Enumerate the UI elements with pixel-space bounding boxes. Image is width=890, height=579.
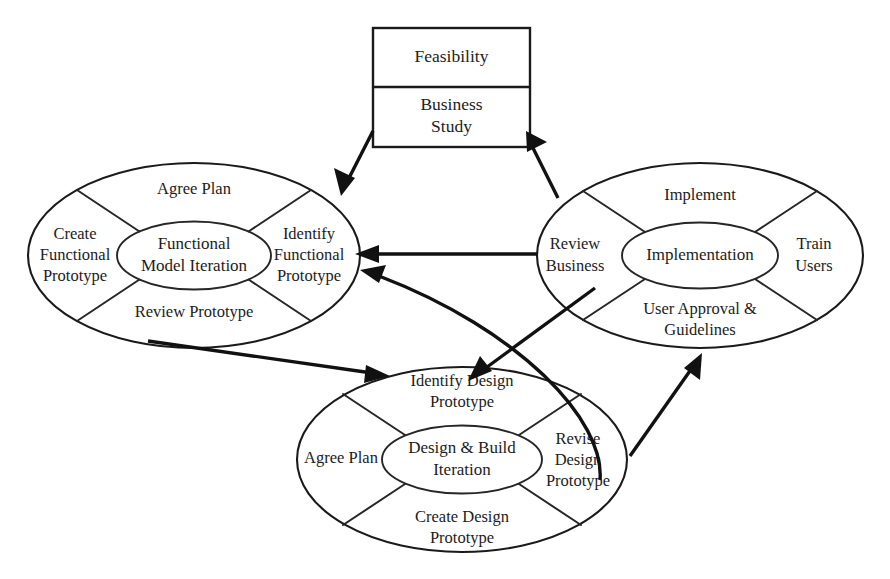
arrow-head-design-build-to-functional: [360, 265, 386, 283]
implementation-center-label-line1: Implementation: [646, 245, 754, 264]
design-build-spoke-top-left: [343, 394, 405, 435]
functional-spoke-bottom-left: [77, 280, 140, 322]
cycle-functional-model-iteration: Functional Model Iteration Agree Plan Id…: [28, 163, 360, 348]
design-build-spoke-bottom-left: [343, 484, 405, 525]
design-build-center-label-line2: Iteration: [433, 460, 491, 479]
dsdm-lifecycle-diagram: Feasibility Business Study Functional Mo…: [0, 0, 890, 579]
arrow-implementation-to-functional: [355, 245, 537, 263]
implementation-segment-left-label-line2: Business: [546, 256, 605, 275]
diagram-canvas: Feasibility Business Study Functional Mo…: [0, 0, 890, 579]
cycle-implementation: Implementation Implement Train Users Use…: [537, 163, 863, 348]
implementation-segment-right-label-line2: Users: [795, 256, 833, 275]
design-build-segment-left-label-line1: Agree Plan: [304, 448, 378, 467]
stage-box: Feasibility Business Study: [373, 28, 530, 147]
design-build-segment-top-label-line1: Identify Design: [410, 371, 513, 390]
functional-segment-top-label: Agree Plan: [157, 179, 231, 198]
functional-segment-right-label-line1: Identify: [283, 224, 336, 243]
stage-box-row-business-study-line2: Study: [431, 116, 472, 136]
functional-segment-left-label-line1: Create: [53, 224, 96, 243]
functional-spoke-bottom-right: [249, 280, 312, 322]
design-build-center-label-line1: Design & Build: [408, 438, 516, 457]
functional-segment-left-label-line3: Prototype: [43, 266, 107, 285]
arrow-implementation-to-design-build: [468, 288, 595, 381]
implementation-segment-top-label: Implement: [664, 185, 736, 204]
arrow-implementation-to-business-study: [526, 131, 558, 198]
implementation-spoke-bottom-right: [755, 279, 817, 320]
implementation-spoke-top-left: [583, 191, 645, 232]
implementation-spoke-bottom-left: [583, 279, 645, 320]
stage-box-row-business-study-line1: Business: [420, 94, 482, 114]
design-build-spoke-bottom-right: [519, 484, 581, 525]
design-build-segment-bottom-label-line2: Prototype: [430, 528, 494, 547]
cycle-design-and-build-iteration: Design & Build Iteration Identify Design…: [297, 367, 627, 552]
design-build-segment-bottom-label-line1: Create Design: [415, 507, 509, 526]
functional-segment-right-label-line2: Functional: [274, 245, 345, 264]
functional-center-label-line1: Functional: [158, 234, 231, 253]
arrow-business-study-to-functional: [334, 131, 373, 196]
functional-segment-right-label-line3: Prototype: [277, 266, 341, 285]
functional-segment-left-label-line2: Functional: [40, 245, 111, 264]
stage-box-row-feasibility-label: Feasibility: [415, 46, 489, 66]
implementation-segment-bottom-label-line2: Guidelines: [664, 320, 736, 339]
functional-segment-bottom-label: Review Prototype: [135, 302, 254, 321]
arrow-head-implementation-to-business-study: [526, 131, 547, 152]
design-build-segment-top-label-line2: Prototype: [430, 392, 494, 411]
implementation-spoke-top-right: [755, 191, 817, 232]
arrow-functional-to-design-build: [148, 341, 390, 383]
arrow-design-build-to-implementation: [630, 353, 702, 456]
implementation-segment-bottom-label-line1: User Approval &: [643, 299, 757, 318]
implementation-segment-right-label-line1: Train: [796, 234, 831, 253]
functional-center-label-line2: Model Iteration: [141, 256, 248, 275]
implementation-segment-left-label-line1: Review: [550, 234, 600, 253]
design-build-segment-right-label-line2: Design: [555, 450, 602, 469]
